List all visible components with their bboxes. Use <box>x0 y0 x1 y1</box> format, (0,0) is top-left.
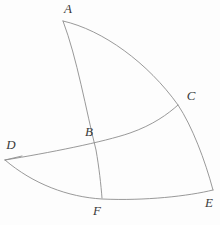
arc-A-B-F <box>63 21 102 198</box>
point-label-F: F <box>92 203 102 218</box>
figure-canvas: A B C D E F <box>0 0 220 225</box>
point-label-B: B <box>85 124 93 139</box>
point-label-A: A <box>63 1 72 16</box>
point-label-D: D <box>5 137 16 152</box>
point-label-C: C <box>187 88 196 103</box>
arc-diagram: A B C D E F <box>0 0 220 225</box>
arc-D-F-E <box>5 160 213 199</box>
point-label-E: E <box>204 195 213 210</box>
